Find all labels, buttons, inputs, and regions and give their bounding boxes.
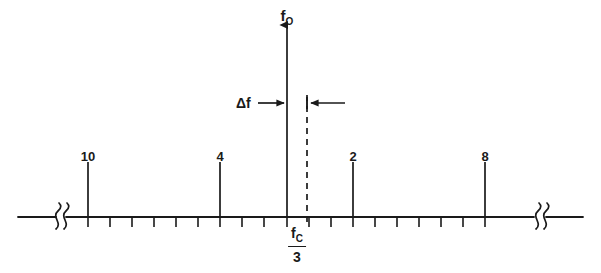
spike-2-label: 2 bbox=[349, 150, 356, 163]
figure-canvas: fO Δf fC 3 10428 bbox=[0, 0, 601, 273]
axis-break-squiggle-right-icon bbox=[536, 203, 549, 229]
spike-4-label: 4 bbox=[216, 150, 223, 163]
spike-10-label: 10 bbox=[81, 150, 95, 163]
carrier-fraction-label: fC 3 bbox=[288, 226, 306, 264]
f0-label-subscript: O bbox=[286, 16, 294, 27]
carrier-fraction-denominator: 3 bbox=[288, 247, 306, 264]
carrier-label-subscript: C bbox=[296, 233, 303, 244]
spike-8-label: 8 bbox=[481, 150, 488, 163]
f0-axis-label: fO bbox=[281, 8, 294, 27]
delta-f-measure bbox=[258, 97, 345, 109]
delta-f-label: Δf bbox=[236, 96, 251, 110]
axis-break-squiggle-left-icon bbox=[56, 203, 69, 229]
carrier-fraction-numerator: fC bbox=[288, 226, 306, 247]
axis-tick-marks bbox=[88, 217, 485, 227]
